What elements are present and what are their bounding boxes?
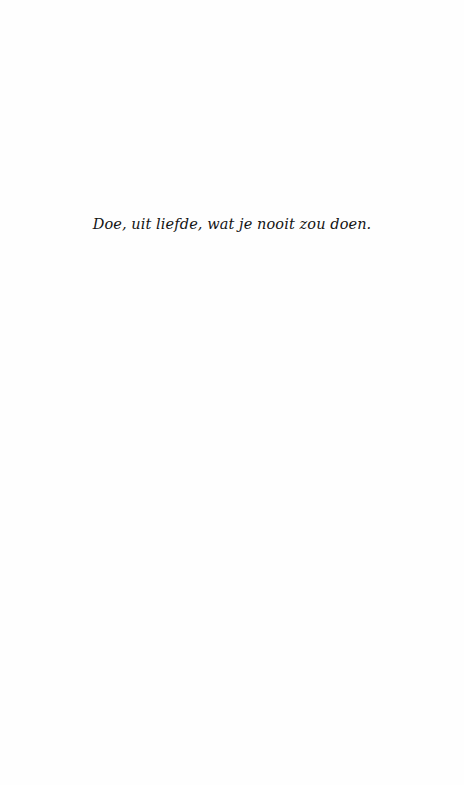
book-page: Doe, uit liefde, wat je nooit zou doen. — [0, 0, 464, 785]
epigraph-text: Doe, uit liefde, wat je nooit zou doen. — [0, 214, 464, 234]
